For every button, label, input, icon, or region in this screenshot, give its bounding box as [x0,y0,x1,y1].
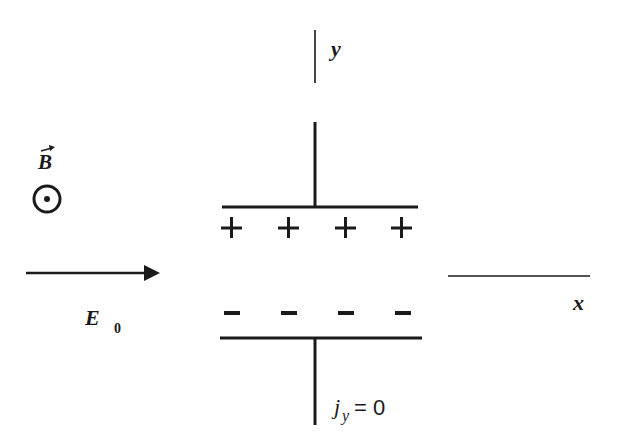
diagram-canvas [0,0,619,447]
positive-charges [221,217,412,238]
electric-field-label: E [85,307,100,329]
current-equation: = 0 [354,397,385,419]
y-axis-label: y [331,38,341,60]
magnetic-field-label: B [38,152,52,173]
electric-field-arrow [26,265,160,281]
x-axis-label: x [573,292,584,314]
current-label: j [334,396,340,418]
current-subscript: y [342,408,349,424]
magnetic-field-out-of-page-icon [34,186,60,212]
electric-field-subscript: 0 [114,322,121,336]
